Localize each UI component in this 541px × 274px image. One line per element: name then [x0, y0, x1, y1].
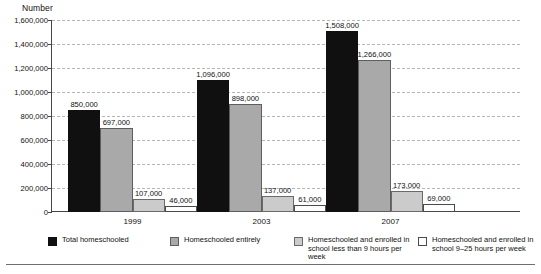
- legend-swatch-icon: [170, 237, 179, 246]
- bar: [423, 204, 455, 212]
- bar: [294, 205, 326, 212]
- bar-value-label: 69,000: [427, 194, 450, 203]
- bar-value-label: 46,000: [169, 196, 192, 205]
- bar: [262, 196, 294, 212]
- y-axis-tick-label: 200,000: [21, 184, 48, 193]
- x-axis-tick-label: 2003: [253, 217, 271, 226]
- y-axis-tick-labels: 0200,000400,000600,000800,0001,000,0001,…: [0, 0, 48, 274]
- bar-value-label: 61,000: [298, 195, 321, 204]
- bar-value-label: 173,000: [393, 181, 420, 190]
- bar: [100, 128, 132, 212]
- bar: [165, 206, 197, 212]
- x-axis-tick-label: 1999: [124, 217, 142, 226]
- bar: [391, 191, 423, 212]
- y-axis-tick-label: 1,200,000: [14, 64, 48, 73]
- legend-swatch-icon: [48, 237, 57, 246]
- bar-value-label: 1,096,000: [196, 70, 230, 79]
- y-axis-tick-label: 600,000: [21, 136, 48, 145]
- bar-value-label: 1,508,000: [325, 21, 359, 30]
- legend-item[interactable]: Homeschooled and enrolled in school less…: [294, 236, 414, 262]
- legend-swatch-icon: [418, 237, 427, 246]
- bar: [133, 199, 165, 212]
- legend-label: Homeschooled and enrolled in school less…: [308, 236, 414, 262]
- bar-value-label: 898,000: [232, 94, 259, 103]
- legend-label: Homeschooled and enrolled in school 9–25…: [432, 236, 536, 253]
- bar: [68, 110, 100, 212]
- legend-label: Total homeschooled: [62, 236, 129, 245]
- y-axis-tick-label: 1,400,000: [14, 40, 48, 49]
- legend-item[interactable]: Homeschooled entirely: [170, 236, 290, 246]
- x-axis-tick-label: 2007: [382, 217, 400, 226]
- bar-value-label: 1,266,000: [357, 50, 391, 59]
- homeschooling-bar-chart: Number 0200,000400,000600,000800,0001,00…: [0, 0, 541, 274]
- legend-item[interactable]: Total homeschooled: [48, 236, 166, 246]
- y-axis-tick-label: 400,000: [21, 160, 48, 169]
- legend-label: Homeschooled entirely: [184, 236, 260, 245]
- bar: [326, 31, 358, 212]
- y-axis-tick-label: 1,000,000: [14, 88, 48, 97]
- bar: [197, 80, 229, 212]
- bar-value-label: 107,000: [135, 189, 162, 198]
- y-axis-tick-label: 800,000: [21, 112, 48, 121]
- bars-layer: 850,000697,000107,00046,0001,096,000898,…: [51, 20, 520, 212]
- y-axis-tick-label: 1,600,000: [14, 16, 48, 25]
- chart-legend: Total homeschooledHomeschooled entirelyH…: [48, 236, 536, 262]
- y-axis-tick: [48, 212, 52, 213]
- bar: [358, 60, 390, 212]
- bar: [229, 104, 261, 212]
- bar-value-label: 697,000: [103, 118, 130, 127]
- legend-item[interactable]: Homeschooled and enrolled in school 9–25…: [418, 236, 536, 253]
- bottom-divider: [6, 264, 535, 265]
- legend-swatch-icon: [294, 237, 303, 246]
- bar-value-label: 137,000: [264, 186, 291, 195]
- bar-value-label: 850,000: [70, 100, 97, 109]
